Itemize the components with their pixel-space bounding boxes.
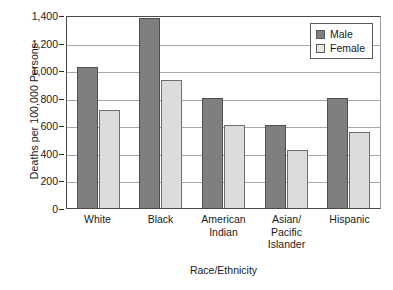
bar-group — [192, 17, 255, 208]
y-tick-mark — [59, 99, 64, 100]
x-tick-label-line: Black — [130, 213, 191, 226]
x-axis-tick-labels: WhiteBlackAmericanIndianAsian/PacificIsl… — [66, 213, 381, 251]
y-tick-label: 1,000 — [32, 66, 58, 76]
x-tick-label: Black — [129, 213, 192, 251]
x-axis-title: Race/Ethnicity — [66, 264, 381, 276]
y-tick-label: 600 — [40, 121, 58, 131]
x-tick-label-line: Hispanic — [319, 213, 380, 226]
x-tick-label-line: Pacific — [256, 226, 317, 239]
x-tick-label-line: Islander — [256, 238, 317, 251]
y-tick-mark — [59, 154, 64, 155]
legend-item-female: Female — [316, 42, 365, 54]
y-tick-label: 200 — [40, 176, 58, 186]
bar-male[interactable] — [265, 125, 286, 208]
legend-swatch-male-icon — [316, 30, 325, 39]
x-tick-label-line: Indian — [193, 226, 254, 239]
x-tick-label: White — [66, 213, 129, 251]
plot-area: Male Female — [66, 16, 381, 209]
y-tick-label: 400 — [40, 149, 58, 159]
legend-swatch-female-icon — [316, 44, 325, 53]
bar-group — [67, 17, 130, 208]
bar-male[interactable] — [77, 67, 98, 208]
bar-female[interactable] — [224, 125, 245, 208]
bar-female[interactable] — [349, 132, 370, 208]
bar-male[interactable] — [139, 18, 160, 208]
y-axis-tick-labels: 02004006008001,0001,2001,400 — [20, 16, 64, 209]
bar-chart-figure: Deaths per 100,000 Persons 0200400600800… — [0, 0, 393, 290]
y-tick-mark — [59, 209, 64, 210]
bar-female[interactable] — [161, 80, 182, 208]
legend-label-male: Male — [330, 28, 353, 40]
y-tick-label: 0 — [52, 204, 58, 214]
bar-male[interactable] — [202, 98, 223, 208]
x-tick-label-line: Asian/ — [256, 213, 317, 226]
legend-item-male: Male — [316, 28, 365, 40]
bar-female[interactable] — [99, 110, 120, 208]
y-tick-mark — [59, 44, 64, 45]
x-tick-label-line: White — [67, 213, 128, 226]
legend-label-female: Female — [330, 42, 365, 54]
bar-group — [255, 17, 318, 208]
legend: Male Female — [310, 23, 373, 59]
x-tick-label: Asian/PacificIslander — [255, 213, 318, 251]
y-tick-mark — [59, 16, 64, 17]
x-tick-label: AmericanIndian — [192, 213, 255, 251]
y-tick-label: 1,200 — [32, 39, 58, 49]
y-tick-label: 800 — [40, 94, 58, 104]
x-tick-label: Hispanic — [318, 213, 381, 251]
bar-male[interactable] — [327, 98, 348, 208]
y-tick-mark — [59, 126, 64, 127]
y-tick-label: 1,400 — [32, 11, 58, 21]
bar-group — [130, 17, 193, 208]
x-tick-label-line: American — [193, 213, 254, 226]
y-tick-mark — [59, 181, 64, 182]
y-tick-mark — [59, 71, 64, 72]
bar-female[interactable] — [287, 150, 308, 208]
